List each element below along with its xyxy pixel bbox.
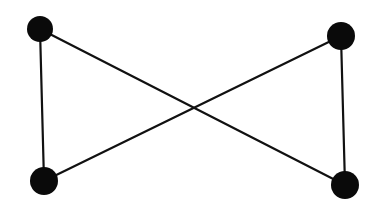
node-bottom-left [30, 167, 58, 195]
edge-top-left-bottom-left [40, 29, 44, 181]
edge-top-right-bottom-right [341, 36, 345, 185]
graph-diagram [0, 0, 378, 210]
node-bottom-right [331, 171, 359, 199]
edges-layer [40, 29, 345, 185]
node-top-left [27, 16, 53, 42]
node-top-right [327, 22, 355, 50]
